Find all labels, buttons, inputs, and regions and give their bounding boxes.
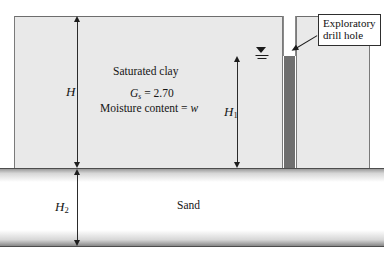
clay-moisture-content-label: Moisture content = w bbox=[100, 103, 198, 115]
clay-top-edge-left bbox=[14, 16, 283, 17]
figure-canvas: H H1 H2 Saturated clay Gs = 2.70 Moistur… bbox=[0, 0, 384, 262]
dimension-label-H1: H1 bbox=[224, 105, 238, 120]
sand-bottom-boundary-shading bbox=[0, 230, 384, 247]
clay-left-edge bbox=[14, 16, 15, 168]
dimension-line-H bbox=[77, 20, 78, 164]
drill-hole-water-column bbox=[284, 56, 295, 168]
drill-hole-callout-line2: drill hole bbox=[323, 29, 376, 41]
dimension-arrowhead-H-top bbox=[74, 16, 80, 22]
dimension-arrowhead-H1-top bbox=[234, 56, 240, 62]
drill-hole-callout-line1: Exploratory bbox=[323, 17, 376, 29]
sand-base-line bbox=[0, 246, 384, 247]
moisture-content-text: Moisture content = bbox=[100, 102, 190, 114]
dimension-arrowhead-H2-top bbox=[74, 169, 80, 175]
dimension-label-H1-subscript: 1 bbox=[233, 110, 237, 120]
dimension-arrowhead-H2-bottom bbox=[74, 240, 80, 246]
water-table-triangle-icon bbox=[256, 47, 266, 53]
dimension-label-H: H bbox=[66, 85, 75, 98]
dimension-label-H1-symbol: H bbox=[224, 104, 233, 119]
clay-sand-interface-line bbox=[0, 168, 384, 169]
dimension-arrowhead-H-bottom bbox=[74, 162, 80, 168]
clay-specific-gravity-label: Gs = 2.70 bbox=[130, 88, 174, 100]
water-table-bar-upper bbox=[256, 55, 269, 56]
dimension-arrowhead-H1-bottom bbox=[234, 162, 240, 168]
layer-label-sand: Sand bbox=[177, 200, 200, 212]
drill-hole-callout: Exploratory drill hole bbox=[318, 14, 381, 46]
dimension-label-H2-subscript: 2 bbox=[64, 205, 68, 215]
specific-gravity-value: = 2.70 bbox=[141, 87, 173, 99]
water-table-bar-lower bbox=[258, 58, 267, 59]
dimension-line-H2 bbox=[77, 173, 78, 242]
layer-label-saturated-clay: Saturated clay bbox=[113, 66, 178, 78]
clay-left-edge-at-hole bbox=[296, 16, 297, 168]
water-table-symbol bbox=[255, 47, 269, 61]
sand-top-boundary-shading bbox=[0, 168, 384, 182]
dimension-label-H2: H2 bbox=[55, 200, 69, 215]
dimension-label-H2-symbol: H bbox=[55, 199, 64, 214]
moisture-content-symbol: w bbox=[190, 102, 198, 114]
